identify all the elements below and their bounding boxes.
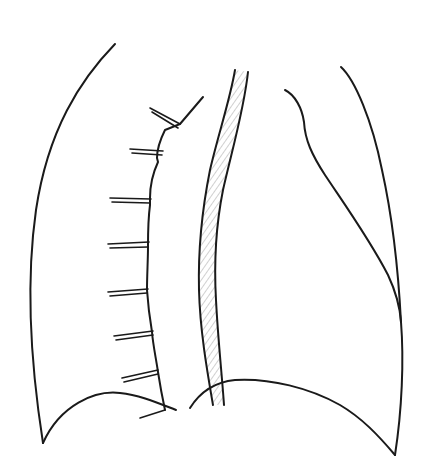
left-base-curve <box>43 393 176 443</box>
rib-spur-5 <box>108 289 148 296</box>
left-inner-border <box>147 97 203 410</box>
left-outer-contour <box>30 44 115 443</box>
diagram-canvas: line-art anatomical sketch <box>0 0 425 470</box>
rib-spurs <box>108 108 180 418</box>
rib-spur-8 <box>140 410 165 418</box>
right-outer-contour <box>341 67 402 455</box>
right-inner-contour <box>285 90 401 322</box>
rib-spur-4 <box>108 242 149 248</box>
chest-outline-drawing <box>0 0 425 470</box>
rib-spur-3 <box>110 198 151 203</box>
rib-spur-6 <box>114 331 153 340</box>
rib-spur-7 <box>122 370 158 382</box>
